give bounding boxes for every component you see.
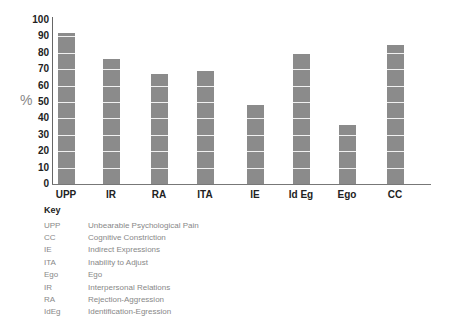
x-tick-label: Id Eg <box>281 189 321 200</box>
y-tick-label: 50 <box>24 97 49 107</box>
y-tick-label: 30 <box>24 130 49 140</box>
bar-id-eg <box>293 54 310 184</box>
key-abbreviation: UPP <box>44 221 88 230</box>
bar-upp <box>58 33 75 184</box>
y-tick-label: 40 <box>24 113 49 123</box>
bar-ego <box>339 125 356 184</box>
bar-cc <box>387 45 404 184</box>
y-tick-label: 70 <box>24 64 49 74</box>
x-tick-label: ITA <box>185 189 225 200</box>
x-tick-label: IR <box>91 189 131 200</box>
key-item: CCCognitive Constriction <box>44 231 199 243</box>
key-list: UPPUnbearable Psychological PainCCCognit… <box>44 219 199 318</box>
y-tick-label: 60 <box>24 81 49 91</box>
bar-ita <box>197 71 214 184</box>
y-axis-line <box>52 17 53 185</box>
key-description: Ego <box>88 270 102 279</box>
y-tick-label: 0 <box>24 179 49 189</box>
key-abbreviation: Ego <box>44 270 88 279</box>
x-tick-label: UPP <box>46 189 86 200</box>
x-tick-label: CC <box>375 189 415 200</box>
key-abbreviation: IR <box>44 283 88 292</box>
key-item: UPPUnbearable Psychological Pain <box>44 219 199 231</box>
key-item: EgoEgo <box>44 269 199 281</box>
y-tick-label: 80 <box>24 48 49 58</box>
key-description: Rejection-Aggression <box>88 295 164 304</box>
key-description: Interpersonal Relations <box>88 283 170 292</box>
bar-chart: % 0102030405060708090100 UPPIRRAITAIEId … <box>0 0 451 200</box>
key-abbreviation: CC <box>44 233 88 242</box>
key-abbreviation: ITA <box>44 258 88 267</box>
y-tick-label: 100 <box>24 15 49 25</box>
x-tick-label: RA <box>139 189 179 200</box>
key-description: Unbearable Psychological Pain <box>88 221 199 230</box>
bar-ie <box>247 105 264 184</box>
key-item: ITAInability to Adjust <box>44 256 199 268</box>
y-tick-label: 10 <box>24 163 49 173</box>
key-abbreviation: RA <box>44 295 88 304</box>
y-tick-label: 20 <box>24 146 49 156</box>
chart-key: Key UPPUnbearable Psychological PainCCCo… <box>44 205 199 318</box>
key-abbreviation: IdEg <box>44 307 88 316</box>
key-description: Inability to Adjust <box>88 258 148 267</box>
x-axis-line <box>52 184 431 185</box>
key-item: RARejection-Aggression <box>44 293 199 305</box>
x-tick-label: IE <box>235 189 275 200</box>
key-abbreviation: IE <box>44 245 88 254</box>
key-item: IdEgIdentification-Egression <box>44 306 199 318</box>
key-title: Key <box>44 205 199 215</box>
y-tick-label: 90 <box>24 31 49 41</box>
key-item: IEIndirect Expressions <box>44 244 199 256</box>
bar-ra <box>151 74 168 184</box>
key-description: Cognitive Constriction <box>88 233 166 242</box>
bar-ir <box>103 59 120 184</box>
key-description: Identification-Egression <box>88 307 171 316</box>
x-tick-label: Ego <box>327 189 367 200</box>
key-description: Indirect Expressions <box>88 245 160 254</box>
key-item: IRInterpersonal Relations <box>44 281 199 293</box>
